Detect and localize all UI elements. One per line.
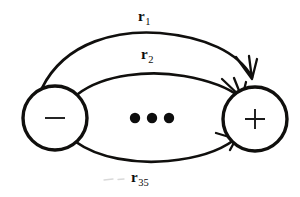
ellipsis-dot	[164, 113, 174, 123]
edge-label-r1-subscript: 1	[145, 16, 150, 27]
scan-artifact-smudge	[104, 179, 124, 180]
diagram-canvas	[0, 0, 300, 197]
negative-terminal-node	[23, 86, 87, 150]
resistor-network-diagram: r1 r2 r35	[0, 0, 300, 197]
edge-r35	[76, 128, 236, 162]
edge-label-r2-subscript: 2	[148, 54, 153, 65]
ellipsis-dot	[130, 113, 140, 123]
edge-continuation-ellipsis	[130, 113, 174, 123]
edge-label-r35-base: r	[131, 169, 138, 185]
edge-label-r35: r35	[131, 169, 149, 185]
edge-label-r2: r2	[141, 46, 153, 62]
edge-label-r2-base: r	[141, 46, 148, 62]
edge-r35-arc	[76, 140, 234, 162]
edge-r2	[78, 73, 246, 98]
edge-label-r35-subscript: 35	[138, 177, 149, 188]
edge-label-r1-base: r	[138, 8, 145, 24]
edge-r2-arc	[78, 73, 240, 97]
positive-terminal-node	[223, 87, 287, 151]
ellipsis-dot	[147, 113, 157, 123]
edge-label-r1: r1	[138, 8, 150, 24]
